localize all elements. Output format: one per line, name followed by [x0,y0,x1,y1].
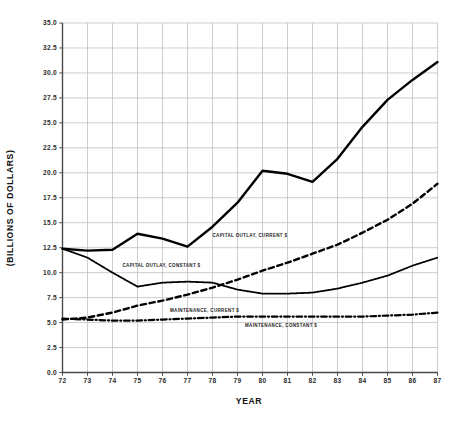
x-tick-label: 82 [309,377,317,384]
x-tick-labels: 72737475767778798081828384858687 [59,377,442,384]
x-tick-label: 76 [159,377,167,384]
y-tick-label: 10.0 [43,269,57,276]
x-tick-label: 83 [334,377,342,384]
y-tick-label: 7.5 [47,294,57,301]
x-tick-label: 85 [384,377,392,384]
series-label-3: MAINTENANCE, CONSTANT $ [245,323,317,328]
series-label-0: CAPITAL OUTLAY, CURRENT $ [213,233,288,238]
x-tick-label: 81 [284,377,292,384]
chart-container: 0.02.55.07.510.012.515.017.520.022.525.0… [0,0,463,422]
data-series [63,62,438,321]
x-tick-label: 80 [259,377,267,384]
x-tick-label: 84 [359,377,367,384]
x-axis-title: YEAR [236,396,262,406]
series-line-2 [63,184,438,320]
y-tick-label: 25.0 [43,119,57,126]
y-tick-label: 30.0 [43,69,57,76]
y-tick-label: 5.0 [47,319,57,326]
y-tick-label: 17.5 [43,194,57,201]
y-tick-label: 12.5 [43,244,57,251]
y-tick-label: 27.5 [43,94,57,101]
y-tick-labels: 0.02.55.07.510.012.515.017.520.022.525.0… [43,19,57,376]
y-tick-label: 2.5 [47,344,57,351]
line-chart: 0.02.55.07.510.012.515.017.520.022.525.0… [0,0,463,422]
y-tick-label: 0.0 [47,369,57,376]
y-tick-label: 20.0 [43,169,57,176]
series-line-0 [63,62,438,251]
series-line-1 [63,249,438,294]
y-axis-title: (BILLIONS OF DOLLARS) [5,150,15,267]
series-label-1: CAPITAL OUTLAY, CONSTANT $ [123,263,201,268]
series-label-2: MAINTENANCE, CURRENT $ [170,308,239,313]
y-tick-label: 15.0 [43,219,57,226]
y-tick-label: 35.0 [43,19,57,26]
y-tick-label: 22.5 [43,144,57,151]
x-tick-label: 72 [59,377,67,384]
x-tick-label: 77 [184,377,192,384]
x-tick-label: 78 [209,377,217,384]
y-tick-label: 32.5 [43,44,57,51]
grid-lines [63,23,438,373]
x-tick-label: 79 [234,377,242,384]
x-tick-label: 86 [409,377,417,384]
x-tick-label: 73 [84,377,92,384]
x-tick-label: 75 [134,377,142,384]
x-tick-label: 87 [434,377,442,384]
series-annotations: CAPITAL OUTLAY, CURRENT $CAPITAL OUTLAY,… [123,233,318,328]
x-tick-label: 74 [109,377,117,384]
series-line-3 [63,313,438,321]
